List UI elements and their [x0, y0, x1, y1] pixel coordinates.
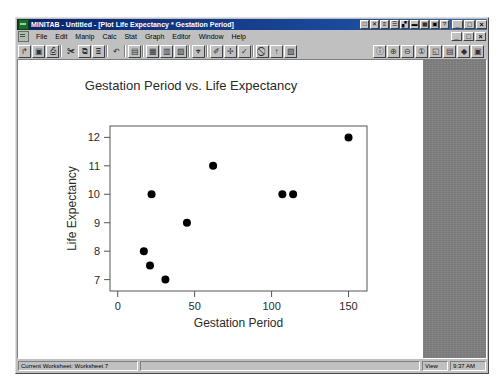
status-clock: 9:37 AM: [450, 361, 486, 371]
toolbar-separator: [123, 45, 127, 58]
svg-text:11: 11: [89, 160, 100, 172]
data-point-5: [209, 162, 217, 170]
layout-icon[interactable]: ▤: [443, 45, 456, 58]
status-current-worksheet: Current Worksheet: Worksheet 7: [18, 361, 138, 371]
data-point-1: [146, 261, 154, 269]
svg-text:100: 100: [262, 300, 280, 312]
menu-item-window[interactable]: Window: [195, 31, 228, 42]
data-point-6: [278, 190, 286, 198]
print-icon[interactable]: ⎙: [46, 45, 59, 58]
child-close-button[interactable]: ×: [475, 32, 486, 41]
data-point-2: [148, 190, 156, 198]
main-toolbar: ↱ ▣ ⎙ ✀ ⧉ ⌸ ↶ ▤ ▦ ▥ ▧ ⌖ ✐ ✢ ✓ ⃠ ↑ ▨: [17, 43, 487, 60]
title-bar: MINITAB - Untitled - [Plot Life Expectan…: [17, 19, 487, 30]
data-point-8: [345, 133, 353, 141]
window-close-button[interactable]: ×: [476, 20, 487, 29]
workspace: Gestation Period vs. Life Expectancy 789…: [17, 59, 487, 359]
svg-text:7: 7: [94, 274, 100, 286]
graph-icon[interactable]: ▨: [284, 45, 297, 58]
find-icon[interactable]: ⌖: [192, 45, 205, 58]
child-restore-button[interactable]: □: [463, 32, 474, 41]
menu-item-stat[interactable]: Stat: [120, 31, 140, 42]
minitab-application-window: MINITAB - Untitled - [Plot Life Expectan…: [15, 17, 489, 374]
undo-icon[interactable]: ↶: [110, 45, 123, 58]
status-message: [140, 361, 420, 371]
tile-icon[interactable]: ≡: [380, 20, 389, 29]
svg-text:8: 8: [94, 245, 100, 257]
minimize-all-icon[interactable]: ▬: [410, 20, 419, 29]
data-point-3: [161, 276, 169, 284]
graph-document[interactable]: Gestation Period vs. Life Expectancy 789…: [18, 60, 427, 358]
svg-text:50: 50: [189, 300, 201, 312]
empty-workspace-area: [423, 60, 486, 358]
page-top-margin: [0, 0, 504, 15]
toolbar-separator: [205, 45, 209, 58]
page-root: MINITAB - Untitled - [Plot Life Expectan…: [0, 0, 504, 387]
svg-text:9: 9: [94, 217, 100, 229]
child-minimize-button[interactable]: _: [451, 32, 462, 41]
window-maximize-button[interactable]: □: [464, 20, 475, 29]
title-bar-toolbar: □ ✕ ≡ ☰ ▞ ▬ ▦ ▣ ?: [360, 20, 449, 29]
palette-icon[interactable]: ▣: [471, 45, 484, 58]
paste-icon[interactable]: ⌸: [92, 45, 105, 58]
window-minimize-button[interactable]: _: [452, 20, 463, 29]
menu-item-help[interactable]: Help: [228, 31, 250, 42]
menu-item-manip[interactable]: Manip: [71, 31, 98, 42]
toolbar-separator: [251, 45, 255, 58]
annotate-icon[interactable]: ⓘ: [373, 45, 386, 58]
select-icon[interactable]: ◱: [429, 45, 442, 58]
svg-text:150: 150: [339, 300, 357, 312]
workspace-texture: [423, 60, 486, 358]
arrange-icon[interactable]: ▞: [400, 20, 409, 29]
save-icon[interactable]: ▣: [32, 45, 45, 58]
status-bar: Current Worksheet: Worksheet 7 View 9:37…: [17, 360, 487, 372]
graph-toolbar: ⓘ ⊕ ⊖ ① ◱ ▤ ◆ ▣: [372, 45, 484, 58]
y-axis-label: Life Expectancy: [65, 166, 79, 251]
data-window-icon[interactable]: ▦: [420, 20, 429, 29]
minitab-icon: [18, 19, 29, 30]
svg-text:12: 12: [88, 131, 100, 143]
window-title: MINITAB - Untitled - [Plot Life Expectan…: [31, 19, 360, 30]
x-axis-label: Gestation Period: [194, 316, 283, 330]
child-window-buttons: _ □ ×: [450, 32, 486, 41]
project-manager-icon[interactable]: ▧: [174, 45, 187, 58]
new-project-icon[interactable]: □: [360, 20, 369, 29]
copy-icon[interactable]: ⧉: [78, 45, 91, 58]
status-view-label: View: [422, 361, 448, 371]
menu-item-edit[interactable]: Edit: [51, 31, 71, 42]
worksheet-icon[interactable]: ▦: [146, 45, 159, 58]
graph-window-icon[interactable]: ▣: [430, 20, 439, 29]
data-point-4: [183, 219, 191, 227]
open-icon[interactable]: ↱: [18, 45, 31, 58]
toolbar-separator: [187, 45, 191, 58]
menu-item-file[interactable]: File: [32, 31, 51, 42]
data-point-7: [289, 190, 297, 198]
menu-bar: File Edit Manip Calc Stat Graph Editor W…: [17, 31, 487, 42]
session-icon[interactable]: ▤: [128, 45, 141, 58]
marker-icon[interactable]: ◆: [457, 45, 470, 58]
close-graph-icon[interactable]: ✕: [370, 20, 379, 29]
menu-item-calc[interactable]: Calc: [98, 31, 120, 42]
svg-text:10: 10: [88, 188, 100, 200]
data-point-0: [140, 247, 148, 255]
toolbar-separator: [59, 45, 63, 58]
zoom-out-icon[interactable]: ⊖: [401, 45, 414, 58]
edit-last-icon[interactable]: ✓: [238, 45, 251, 58]
toolbar-separator: [105, 45, 109, 58]
help-icon[interactable]: ?: [440, 20, 449, 29]
history-icon[interactable]: ▥: [160, 45, 173, 58]
toolbar-separator: [141, 45, 145, 58]
cancel-icon[interactable]: ⃠: [256, 45, 269, 58]
info-icon[interactable]: ①: [415, 45, 428, 58]
menu-item-graph[interactable]: Graph: [141, 31, 168, 42]
brush-icon[interactable]: ✐: [210, 45, 223, 58]
scatter-plot[interactable]: 789101112050100150Gestation PeriodLife E…: [18, 60, 427, 359]
svg-text:0: 0: [115, 300, 121, 312]
document-icon[interactable]: [18, 31, 29, 42]
crosshair-icon[interactable]: ✢: [224, 45, 237, 58]
up-icon[interactable]: ↑: [270, 45, 283, 58]
cut-icon[interactable]: ✀: [64, 45, 77, 58]
menu-item-editor[interactable]: Editor: [168, 31, 194, 42]
cascade-icon[interactable]: ☰: [390, 20, 399, 29]
zoom-in-icon[interactable]: ⊕: [387, 45, 400, 58]
